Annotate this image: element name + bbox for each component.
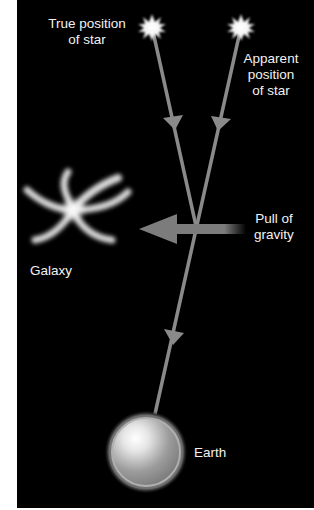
earth-label: Earth: [194, 445, 226, 461]
arrow-down-icon: [163, 115, 183, 130]
label-line: of star: [40, 32, 134, 48]
apparent-star-label: Apparent position of star: [236, 51, 306, 99]
galaxy-label: Galaxy: [30, 263, 72, 279]
galaxy-icon: [27, 172, 128, 240]
earth-icon: [104, 410, 188, 494]
true-star-icon: [138, 14, 166, 41]
label-line: Apparent: [236, 51, 306, 67]
label-line: Pull of: [246, 211, 302, 227]
label-line: True position: [40, 16, 134, 32]
label-line: position: [236, 67, 306, 83]
true-star-label: True position of star: [40, 16, 134, 48]
arrow-left-icon: [139, 214, 177, 244]
gravity-label: Pull of gravity: [246, 211, 302, 243]
arrow-down-icon: [211, 116, 231, 131]
apparent-star-icon: [227, 14, 255, 41]
arrow-down-icon: [164, 329, 184, 345]
label-line: of star: [236, 83, 306, 99]
label-line: gravity: [246, 227, 302, 243]
